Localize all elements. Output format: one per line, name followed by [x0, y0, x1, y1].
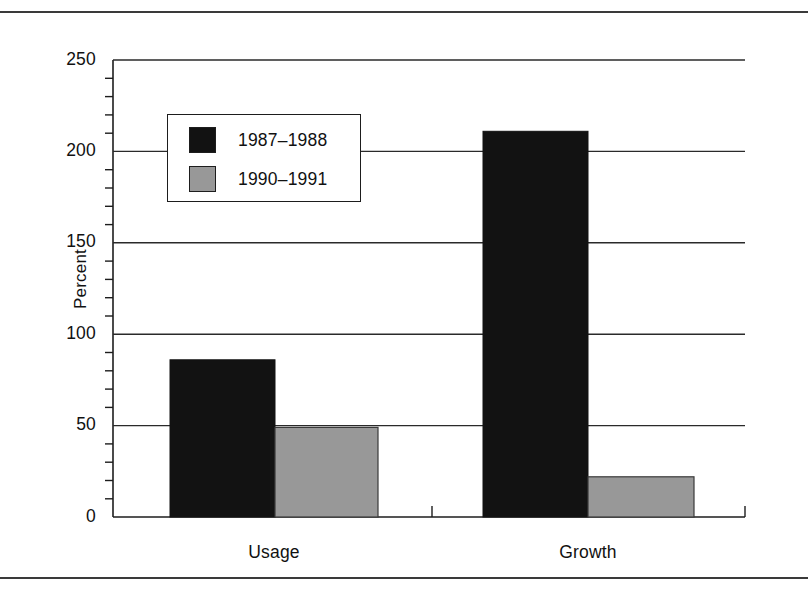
legend-swatch-1990-1991 [189, 166, 216, 192]
y-minor-ticks [105, 78, 113, 499]
chart-legend: 1987–1988 1990–1991 [167, 114, 361, 202]
legend-item-1990-1991: 1990–1991 [168, 164, 362, 194]
page-rule-top [0, 11, 808, 13]
bar-usage-1990-1991 [275, 427, 378, 517]
x-tick-label-growth: Growth [488, 542, 688, 563]
chart-plot-svg [0, 14, 808, 574]
page-rule-bottom [0, 577, 808, 579]
y-tick-label-0: 0 [24, 506, 96, 527]
legend-label-1987-1988: 1987–1988 [238, 130, 327, 151]
y-tick-label-200: 200 [24, 140, 96, 161]
bar-chart-figure: Percent 250 200 150 100 50 0 Usage Growt… [0, 14, 808, 574]
y-tick-label-250: 250 [24, 49, 96, 70]
y-tick-label-150: 150 [24, 231, 96, 252]
legend-item-1987-1988: 1987–1988 [168, 125, 362, 155]
legend-label-1990-1991: 1990–1991 [238, 169, 327, 190]
y-tick-label-100: 100 [24, 323, 96, 344]
bar-growth-1990-1991 [588, 477, 694, 517]
legend-swatch-1987-1988 [189, 127, 216, 153]
bar-growth-1987-1988 [483, 131, 588, 517]
page-canvas: Percent 250 200 150 100 50 0 Usage Growt… [0, 0, 808, 593]
y-tick-label-50: 50 [24, 414, 96, 435]
x-tick-label-usage: Usage [174, 542, 374, 563]
bar-usage-1987-1988 [170, 360, 275, 517]
